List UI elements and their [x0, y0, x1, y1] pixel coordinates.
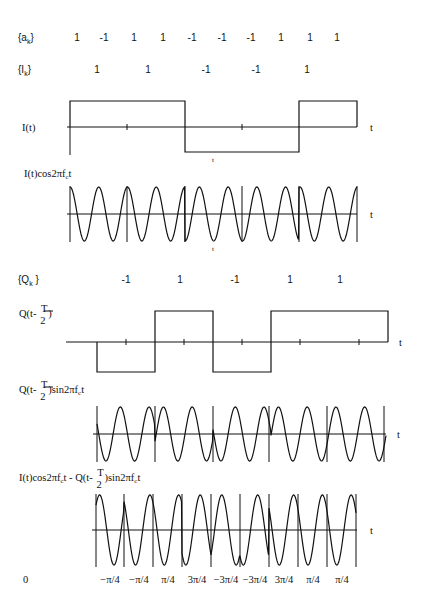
i-cos-axis-label: t: [370, 209, 373, 220]
sum-label: I(t)cos2πfct - Q(t- T2 )sin2πfct: [19, 467, 140, 490]
i-t-label: I(t): [22, 122, 36, 134]
i-k-value: -1: [202, 64, 211, 75]
origin-label: 0: [23, 574, 28, 585]
a-k-value: 1: [307, 32, 313, 43]
phase-label: π/4: [335, 574, 349, 585]
q-k-value: 1: [337, 274, 343, 285]
i-t-plot: I(t) t t: [22, 101, 373, 164]
phase-label: 3π/4: [188, 574, 207, 585]
a-k-value: 1: [160, 32, 166, 43]
q-k-value: -1: [122, 274, 131, 285]
phase-labels-row: 0 −π/4−π/4π/43π/4−3π/4−3π/43π/4π/4π/4: [23, 574, 349, 585]
i-t-axis-label: t: [370, 122, 373, 133]
i-cos-plot: I(t)cos2πfct t t: [24, 168, 373, 253]
phase-label: −π/4: [129, 574, 149, 585]
i-k-label: {Ik}: [18, 64, 32, 77]
a-k-value: -1: [247, 32, 256, 43]
q-k-label: {Qk }: [18, 274, 39, 287]
phase-label: π/4: [306, 574, 320, 585]
a-k-value: 1: [131, 32, 137, 43]
q-k-sequence-row: {Qk } -11-111: [18, 274, 343, 287]
sum-axis-label: t: [370, 525, 373, 536]
oqpsk-waveform-diagram: {ak} 1-111-1-1-1111 {Ik} 11-1-11 I(t) t …: [0, 0, 423, 614]
a-k-value: -1: [218, 32, 227, 43]
q-t-axis-label: t: [399, 337, 402, 348]
a-k-value: -1: [188, 32, 197, 43]
i-k-value: 1: [94, 64, 100, 75]
phase-label: −3π/4: [243, 574, 268, 585]
sum-plot: I(t)cos2πfct - Q(t- T2 )sin2πfct t: [19, 467, 373, 567]
phase-label: −π/4: [100, 574, 120, 585]
q-sin-plot: Q(t- T2 )sin2πfct t: [19, 379, 400, 462]
q-k-value: 1: [177, 274, 183, 285]
a-k-label: {ak}: [18, 32, 34, 45]
a-k-value: 1: [74, 32, 80, 43]
i-cos-label: I(t)cos2πfct: [24, 168, 72, 181]
i-k-value: 1: [304, 64, 310, 75]
q-sin-label: Q(t- T2 )sin2πfct: [19, 379, 84, 402]
i-k-sequence-row: {Ik} 11-1-11: [18, 64, 310, 77]
i-k-value: -1: [252, 64, 261, 75]
q-k-value: -1: [231, 274, 240, 285]
phase-label: π/4: [161, 574, 175, 585]
i-k-value: 1: [145, 64, 151, 75]
phase-label: 3π/4: [275, 574, 294, 585]
i-t-below-label: t: [212, 156, 214, 164]
a-k-value: -1: [100, 32, 109, 43]
q-t-plot: Q(t- T2 ) t: [19, 303, 402, 372]
phase-label: −3π/4: [214, 574, 239, 585]
q-k-value: 1: [287, 274, 293, 285]
a-k-value: 1: [334, 32, 340, 43]
i-cos-below-label: t: [212, 245, 214, 253]
q-t-label: Q(t- T2 ): [19, 303, 52, 326]
q-sin-axis-label: t: [397, 429, 400, 440]
a-k-value: 1: [278, 32, 284, 43]
a-k-sequence-row: {ak} 1-111-1-1-1111: [18, 32, 340, 45]
